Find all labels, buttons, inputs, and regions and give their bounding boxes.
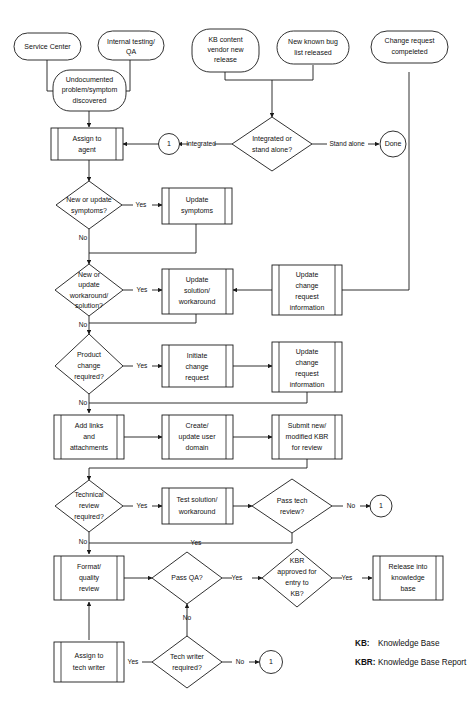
- node-connector-1-tech[interactable]: 1: [370, 495, 392, 517]
- edge-label-product-yes: Yes: [137, 362, 148, 369]
- kb-vendor-label-line2: vendor new: [207, 46, 244, 53]
- kbr-approved-line3: entry to: [285, 579, 308, 587]
- legend-value-kb: Knowledge Base: [378, 639, 440, 648]
- product-decision-line2: change: [78, 362, 101, 370]
- done-label: Done: [385, 140, 402, 147]
- node-new-or-update-workaround[interactable]: New or update workaround/ solution?: [55, 264, 123, 316]
- tech-review-decision-line2: review: [79, 502, 100, 509]
- test-solution-shape: [162, 488, 233, 524]
- node-update-symptoms[interactable]: Update symptoms: [162, 188, 232, 224]
- connector-1-techwriter-label: 1: [269, 658, 273, 665]
- undocumented-line1: Undocumented: [66, 76, 114, 83]
- edge-update-symptoms-to-merge: [89, 224, 196, 253]
- node-done[interactable]: Done: [380, 131, 406, 157]
- edge-label-workaround-yes: Yes: [137, 286, 148, 293]
- node-assign-to-tech-writer[interactable]: Assign to tech writer: [54, 642, 124, 682]
- test-solution-line1: Test solution/: [177, 496, 218, 503]
- tech-writer-decision-line1: Tech writer: [170, 653, 205, 660]
- format-quality-line3: review: [79, 585, 100, 592]
- update-symptoms-line2: symptoms: [181, 207, 213, 215]
- node-initiate-change-request[interactable]: Initiate change request: [162, 345, 233, 387]
- bug-list-label-line2: list released: [294, 49, 331, 56]
- node-connector-1-techwriter[interactable]: 1: [260, 651, 283, 674]
- node-new-or-update-symptoms[interactable]: New or update symptoms?: [56, 181, 122, 229]
- undocumented-line3: discovered: [73, 97, 107, 104]
- legend-value-kbr: Knowledge Base Report: [378, 658, 467, 667]
- pass-qa-label: Pass QA?: [171, 574, 203, 582]
- edge-label-workaround-no: No: [79, 321, 88, 328]
- service-center-label: Service Center: [24, 43, 71, 50]
- node-tech-writer-required[interactable]: Tech writer required?: [152, 636, 222, 688]
- node-kbr-approved-for-entry[interactable]: KBR approved for entry to KB?: [262, 549, 332, 607]
- edge-label-pass-tech-yes: Yes: [191, 539, 202, 546]
- node-service-center[interactable]: Service Center: [14, 33, 81, 60]
- update-solution-line3: workaround: [178, 298, 216, 305]
- tech-writer-decision-shape: [152, 636, 222, 688]
- assign-agent-shape: [51, 128, 123, 160]
- kbr-approved-line2: approved for: [277, 568, 317, 576]
- node-update-change-request-info-bottom[interactable]: Update change request information: [272, 342, 342, 392]
- node-test-solution-workaround[interactable]: Test solution/ workaround: [162, 488, 233, 524]
- kb-vendor-label-line1: KB content: [208, 36, 242, 43]
- node-release-into-knowledge-base[interactable]: Release into knowledge base: [373, 556, 443, 600]
- symptoms-decision-shape: [56, 181, 122, 229]
- edge-label-tech-review-no: No: [79, 538, 88, 545]
- connector-1-top-label: 1: [167, 140, 171, 147]
- update-change-info-top-line4: information: [290, 304, 325, 311]
- integrated-decision-line1: Integrated or: [252, 135, 292, 143]
- integrated-decision-shape: [232, 117, 312, 171]
- edge-label-tech-writer-yes: Yes: [128, 658, 139, 665]
- symptoms-decision-line1: New or update: [66, 196, 112, 204]
- edge-label-pass-qa-no: No: [183, 614, 192, 621]
- node-pass-tech-review[interactable]: Pass tech review?: [252, 479, 332, 533]
- product-decision-line3: required?: [74, 373, 104, 381]
- edge-label-product-no: No: [79, 399, 88, 406]
- node-connector-1-top[interactable]: 1: [159, 134, 180, 155]
- node-update-change-request-info-top[interactable]: Update change request information: [272, 265, 342, 315]
- initiate-change-line2: change: [186, 363, 209, 371]
- update-symptoms-line1: Update: [186, 196, 209, 204]
- node-integrated-or-standalone[interactable]: Integrated or stand alone?: [232, 117, 312, 171]
- node-submit-kbr-for-review[interactable]: Submit new/ modified KBR for review: [272, 415, 342, 459]
- release-kb-line1: Release into: [389, 563, 428, 570]
- symptoms-decision-line2: symptoms?: [71, 207, 107, 215]
- initiate-change-line3: request: [185, 374, 208, 382]
- test-solution-line2: workaround: [178, 508, 216, 515]
- node-undocumented-problem[interactable]: Undocumented problem/symptom discovered: [53, 70, 126, 111]
- bug-list-shape: [277, 31, 349, 64]
- node-change-request-completed[interactable]: Change request compeleted: [371, 31, 448, 63]
- edge-submit-kbr-to-technical-review: [89, 459, 307, 480]
- create-user-domain-line1: Create/: [186, 422, 209, 429]
- pass-tech-review-line1: Pass tech: [277, 497, 308, 504]
- kbr-approved-line4: KB?: [290, 590, 303, 597]
- create-user-domain-line3: domain: [186, 444, 209, 451]
- node-technical-review-required[interactable]: Technical review required?: [55, 480, 123, 532]
- flowchart-svg: Service Center Internal testing/ QA KB c…: [0, 0, 471, 712]
- edge-label-integrated: Integrated: [186, 140, 216, 148]
- initiate-change-line1: Initiate: [187, 352, 208, 359]
- submit-kbr-line2: modified KBR: [286, 433, 329, 440]
- submit-kbr-line1: Submit new/: [288, 422, 327, 429]
- workaround-decision-line3: workaround/: [69, 292, 109, 299]
- workaround-decision-line2: update: [78, 281, 100, 289]
- legend: KB: Knowledge Base KBR: Knowledge Base R…: [355, 639, 467, 667]
- node-assign-to-agent[interactable]: Assign to agent: [51, 128, 123, 160]
- integrated-decision-line2: stand alone?: [252, 146, 292, 153]
- node-new-known-bug-list[interactable]: New known bug list released: [277, 31, 349, 64]
- node-product-change-required[interactable]: Product change required?: [55, 334, 123, 394]
- node-update-solution-workaround[interactable]: Update solution/ workaround: [162, 269, 233, 314]
- update-solution-line1: Update: [186, 276, 209, 284]
- node-create-update-user-domain[interactable]: Create/ update user domain: [162, 415, 233, 459]
- node-internal-testing-qa[interactable]: Internal testing/ QA: [98, 31, 164, 60]
- change-request-completed-line1: Change request: [385, 37, 435, 45]
- workaround-decision-line1: New or: [78, 271, 101, 278]
- edge-label-kbr-approved-yes: Yes: [342, 574, 353, 581]
- edge-label-tech-review-yes: Yes: [137, 502, 148, 509]
- node-format-quality-review[interactable]: Format/ quality review: [54, 556, 124, 600]
- update-change-info-top-line2: change: [296, 282, 319, 290]
- node-pass-qa[interactable]: Pass QA?: [152, 552, 222, 604]
- node-add-links-attachments[interactable]: Add links and attachments: [54, 415, 124, 459]
- node-kb-content-vendor[interactable]: KB content vendor new release: [192, 29, 259, 72]
- internal-testing-label-line2: QA: [126, 48, 136, 56]
- edge-label-tech-writer-no: No: [236, 658, 245, 665]
